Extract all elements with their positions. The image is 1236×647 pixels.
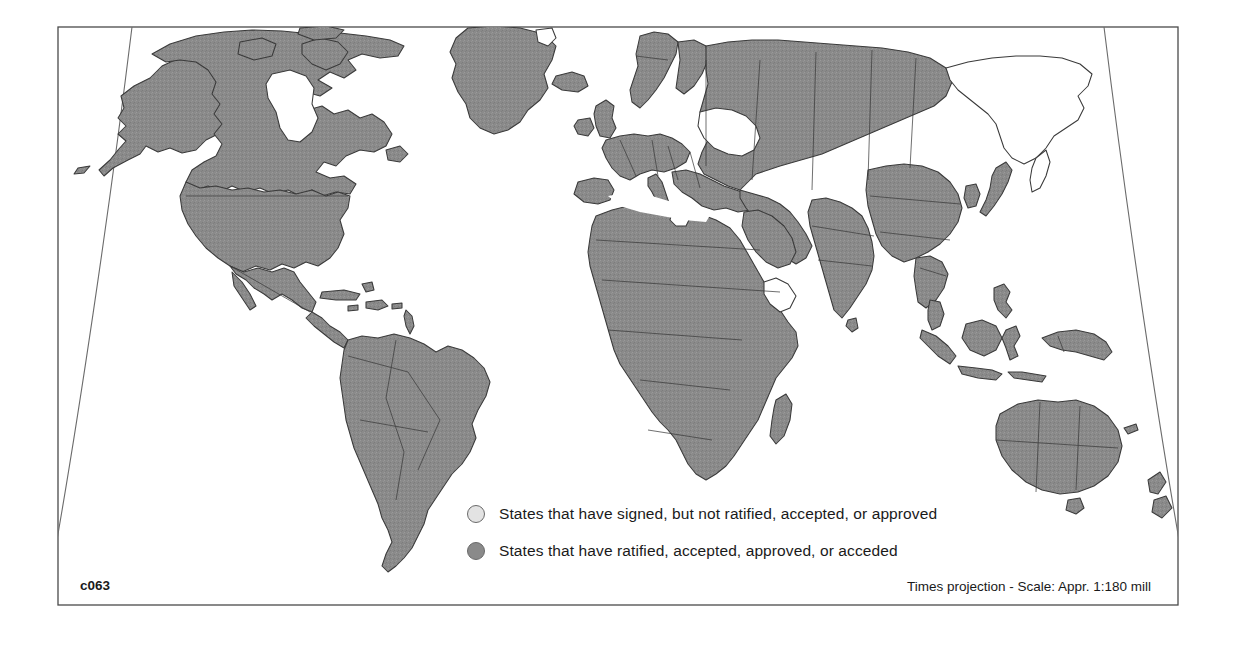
island-jamaica: [348, 305, 358, 311]
map-projection-note: Times projection - Scale: Appr. 1:180 mi…: [907, 579, 1151, 594]
legend-label-signed: States that have signed, but not ratifie…: [499, 505, 937, 523]
legend-label-ratified: States that have ratified, accepted, app…: [499, 542, 898, 560]
legend-item-signed: States that have signed, but not ratifie…: [467, 505, 937, 523]
legend-item-ratified: States that have ratified, accepted, app…: [467, 542, 898, 560]
island-puerto-rico: [392, 303, 402, 309]
legend-swatch-ratified: [467, 542, 485, 560]
legend-swatch-signed: [467, 505, 485, 523]
world-map-figure: States that have signed, but not ratifie…: [0, 0, 1236, 647]
map-code-label: c063: [80, 578, 110, 593]
